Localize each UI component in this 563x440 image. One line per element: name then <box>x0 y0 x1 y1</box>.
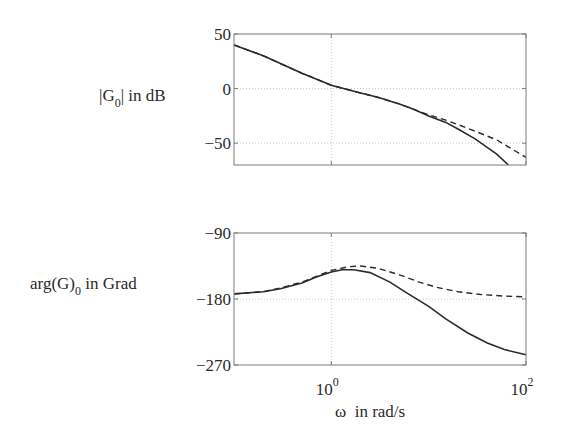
bode-plot: 500−50 |G0| in dB −90−180−270100102 arg(… <box>0 0 563 440</box>
y-tick-label: −50 <box>204 134 231 153</box>
y-tick-label: −270 <box>196 356 231 375</box>
magnitude-ylabel: |G0| in dB <box>99 86 166 110</box>
y-tick-label: −180 <box>196 290 231 309</box>
x-axis-label: ω in rad/s <box>335 402 405 421</box>
phase-axes: −90−180−270100102 arg(G)0 in Grad ω in r… <box>30 224 534 421</box>
y-tick-label: 50 <box>214 25 231 44</box>
phase-ticks: −90−180−270100102 <box>196 224 534 399</box>
series-dashed-line <box>234 266 526 297</box>
x-tick-label: 100 <box>316 375 339 399</box>
magnitude-grid <box>234 34 526 165</box>
magnitude-axes: 500−50 |G0| in dB <box>99 25 526 165</box>
magnitude-ticks: 500−50 <box>204 25 526 165</box>
phase-series <box>234 266 526 355</box>
phase-ylabel: arg(G)0 in Grad <box>30 274 137 298</box>
y-tick-label: −90 <box>204 224 231 243</box>
magnitude-series <box>234 45 526 165</box>
y-tick-label: 0 <box>223 80 232 99</box>
phase-grid <box>234 233 526 365</box>
series-solid-line <box>234 270 526 355</box>
x-tick-label: 102 <box>511 375 534 399</box>
series-solid-line <box>234 45 508 165</box>
phase-frame <box>234 233 526 365</box>
magnitude-frame <box>234 34 526 165</box>
